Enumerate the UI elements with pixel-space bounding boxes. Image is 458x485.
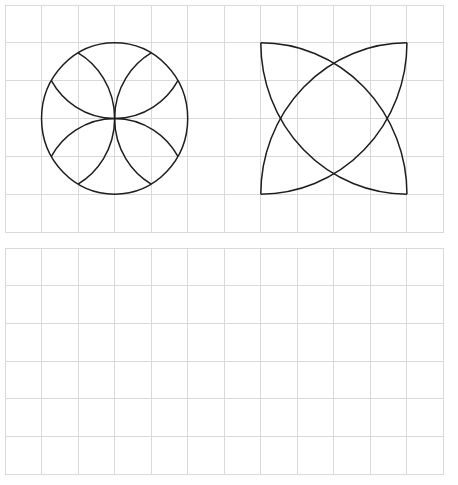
top-grid: [5, 5, 444, 232]
top-grid-panel: [5, 5, 444, 232]
grid-lines: [5, 5, 444, 232]
bottom-grid-panel: [5, 248, 444, 474]
bottom-grid: [5, 248, 444, 474]
grid-lines: [5, 248, 444, 474]
